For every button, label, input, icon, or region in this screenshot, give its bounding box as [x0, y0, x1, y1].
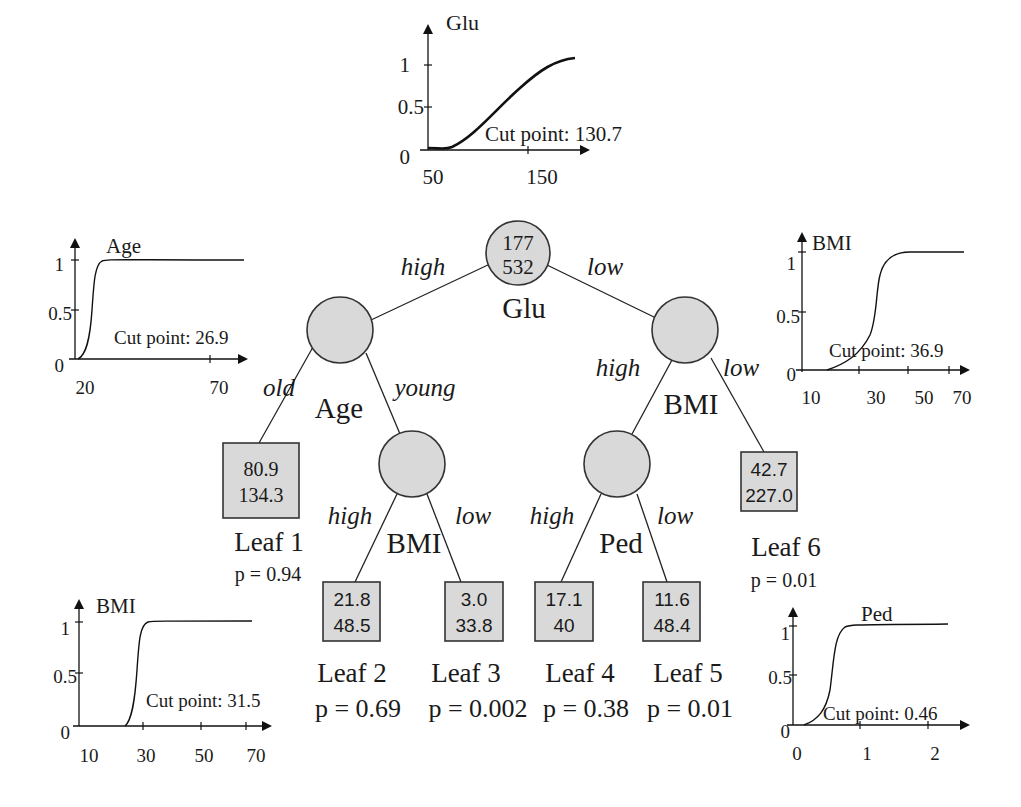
bmi-right-xtick-30: 30 [867, 387, 886, 408]
glu-xtick-50: 50 [423, 165, 444, 189]
ped-feature-label: Ped [599, 527, 643, 559]
leaf-5-bottom-value: 48.4 [654, 615, 691, 636]
ped-cut-point-label: Cut point: 0.46 [823, 703, 938, 724]
root-value-top: 177 [502, 231, 534, 255]
leaf-1-top-value: 80.9 [244, 458, 279, 480]
leaf-4-bottom-value: 40 [553, 615, 574, 636]
age-xtick-20: 20 [76, 377, 95, 398]
bmi-left-membership-chart: BMI 1 0.5 0 10 30 50 70 Cut point: 31.5 [53, 594, 270, 766]
ped-membership-chart: Ped 1 0.5 0 0 1 2 Cut point: 0.46 [768, 602, 968, 764]
leaf-2: 21.8 48.5 Leaf 2 p = 0.69 [315, 582, 401, 723]
leaf-6-p-value: p = 0.01 [751, 569, 817, 592]
leaf-1-bottom-value: 134.3 [239, 484, 284, 506]
bmi-right-chart-title: BMI [812, 231, 852, 255]
root-node-glu: 177 532 Glu high low [401, 221, 624, 324]
bmi-right-xtick-50: 50 [915, 387, 934, 408]
bmi-right-feature-label: BMI [664, 388, 719, 420]
glu-membership-chart: Glu 1 0.5 0 50 150 Cut point: 130.7 [398, 10, 622, 189]
leaf-5-label: Leaf 5 [653, 658, 723, 688]
bmi-left-ytick-05: 0.5 [53, 666, 77, 687]
bmi-left-feature-label: BMI [387, 527, 442, 559]
ped-ytick-05: 0.5 [768, 667, 792, 688]
age-ytick-1: 1 [55, 254, 65, 275]
age-edge-old-label: old [263, 374, 295, 401]
leaf-3: 3.0 33.8 Leaf 3 p = 0.002 [428, 582, 527, 723]
root-edge-low-label: low [587, 253, 623, 280]
ped-xtick-0: 0 [792, 743, 802, 764]
ped-ytick-1: 1 [781, 623, 791, 644]
leaf-3-label: Leaf 3 [431, 658, 501, 688]
leaf-5: 11.6 48.4 Leaf 5 p = 0.01 [643, 582, 733, 723]
leaf-4-label: Leaf 4 [545, 658, 615, 688]
ped-chart-title: Ped [861, 602, 893, 626]
root-value-bottom: 532 [502, 255, 534, 279]
leaf-6-label: Leaf 6 [751, 532, 821, 562]
bmi-right-edge-low-label: low [723, 354, 759, 381]
glu-cut-point-label: Cut point: 130.7 [485, 122, 622, 146]
age-chart-title: Age [106, 234, 141, 258]
ped-xtick-1: 1 [862, 743, 872, 764]
leaf-1-label: Leaf 1 [234, 527, 304, 557]
bmi-right-ytick-05: 0.5 [776, 306, 800, 327]
leaf-1: 80.9 134.3 Leaf 1 p = 0.94 [223, 443, 304, 586]
leaf-4: 17.1 40 Leaf 4 p = 0.38 [535, 582, 629, 723]
age-edge-young-label: young [391, 374, 455, 401]
leaf-2-label: Leaf 2 [317, 658, 387, 688]
bmi-left-ytick-0: 0 [61, 722, 71, 743]
bmi-left-ytick-1: 1 [61, 618, 71, 639]
age-feature-label: Age [315, 392, 363, 424]
bmi-left-xtick-30: 30 [137, 745, 156, 766]
ped-ytick-0: 0 [781, 721, 791, 742]
leaf-3-top-value: 3.0 [461, 589, 487, 610]
age-cut-point-label: Cut point: 26.9 [114, 327, 229, 348]
glu-ytick-1: 1 [400, 53, 411, 77]
age-xtick-70: 70 [210, 377, 229, 398]
ped-edge-high-label: high [530, 502, 574, 529]
ped-node: Ped high low [530, 431, 694, 559]
age-ytick-05: 0.5 [48, 303, 72, 324]
bmi-left-xtick-70: 70 [247, 745, 266, 766]
bmi-left-edge-high-label: high [328, 502, 372, 529]
glu-xtick-150: 150 [526, 165, 558, 189]
leaf-3-bottom-value: 33.8 [456, 615, 493, 636]
bmi-right-edge-high-label: high [596, 354, 640, 381]
bmi-left-edge-low-label: low [455, 502, 491, 529]
root-edge-high-label: high [401, 253, 445, 280]
leaf-2-top-value: 21.8 [334, 589, 371, 610]
glu-chart-title: Glu [446, 10, 479, 35]
age-membership-chart: Age 1 0.5 0 20 70 Cut point: 26.9 [48, 234, 246, 398]
leaf-1-p-value: p = 0.94 [235, 563, 301, 586]
bmi-left-xtick-50: 50 [195, 745, 214, 766]
leaf-4-p-value: p = 0.38 [543, 694, 629, 723]
ped-edge-low-label: low [657, 502, 693, 529]
leaf-6-bottom-value: 227.0 [745, 485, 793, 506]
age-ytick-0: 0 [55, 355, 65, 376]
bmi-left-xtick-10: 10 [80, 745, 99, 766]
leaf-5-top-value: 11.6 [654, 589, 690, 610]
leaf-5-p-value: p = 0.01 [647, 694, 733, 723]
leaf-4-top-value: 17.1 [546, 589, 583, 610]
decision-tree-diagram: 177 532 Glu high low Age old young BMI h… [0, 0, 1021, 807]
bmi-right-xtick-70: 70 [953, 387, 972, 408]
leaf-6: 42.7 227.0 Leaf 6 p = 0.01 [741, 452, 821, 592]
bmi-right-xtick-10: 10 [802, 387, 821, 408]
bmi-right-membership-chart: BMI 1 0.5 0 10 30 50 70 Cut point: 36.9 [776, 231, 971, 408]
bmi-left-node: BMI high low [328, 431, 492, 559]
leaf-2-bottom-value: 48.5 [334, 615, 371, 636]
glu-ytick-05: 0.5 [398, 95, 424, 119]
leaf-2-p-value: p = 0.69 [315, 694, 401, 723]
root-feature-label: Glu [502, 292, 546, 324]
bmi-right-cut-point-label: Cut point: 36.9 [829, 340, 944, 361]
bmi-right-ytick-1: 1 [787, 253, 797, 274]
bmi-left-cut-point-label: Cut point: 31.5 [146, 690, 261, 711]
bmi-right-ytick-0: 0 [787, 364, 797, 385]
leaf-6-top-value: 42.7 [751, 459, 788, 480]
glu-ytick-0: 0 [400, 145, 411, 169]
ped-xtick-2: 2 [930, 743, 940, 764]
bmi-left-chart-title: BMI [96, 594, 136, 618]
age-node: Age old young [263, 297, 456, 424]
leaf-3-p-value: p = 0.002 [428, 694, 527, 723]
